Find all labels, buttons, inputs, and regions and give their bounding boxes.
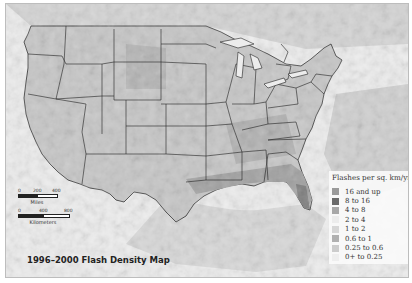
legend-item: 8 to 16 bbox=[332, 196, 409, 205]
legend-item: 0.25 to 0.6 bbox=[332, 243, 409, 252]
legend-swatch bbox=[332, 254, 339, 261]
legend-swatch bbox=[332, 188, 339, 195]
legend-swatch bbox=[332, 198, 339, 205]
legend-swatch bbox=[332, 245, 339, 252]
legend-label: 16 and up bbox=[345, 188, 381, 196]
legend-item: 0.6 to 1 bbox=[332, 234, 409, 243]
legend-label: 2 to 4 bbox=[345, 216, 365, 224]
scale-miles-bar bbox=[18, 194, 58, 198]
legend-swatch bbox=[332, 216, 339, 223]
legend-label: 0.25 to 0.6 bbox=[345, 244, 383, 252]
scale-km-bar bbox=[18, 214, 70, 218]
legend: Flashes per sq. km/yr. 16 and up 8 to 16… bbox=[329, 171, 409, 264]
scale-tick: 200 bbox=[33, 188, 42, 193]
legend-label: 0+ to 0.25 bbox=[345, 253, 382, 261]
legend-label: 0.6 to 1 bbox=[345, 235, 372, 243]
legend-label: 8 to 16 bbox=[345, 197, 370, 205]
scale-tick: 0 bbox=[18, 208, 21, 213]
legend-swatch bbox=[332, 207, 339, 214]
legend-item: 1 to 2 bbox=[332, 225, 409, 234]
legend-label: 1 to 2 bbox=[345, 225, 365, 233]
legend-swatch bbox=[332, 226, 339, 233]
scale-tick: 400 bbox=[39, 208, 48, 213]
legend-item: 16 and up bbox=[332, 187, 409, 196]
scale-tick: 800 bbox=[64, 208, 73, 213]
map-title: 1996–2000 Flash Density Map bbox=[27, 255, 170, 265]
legend-title: Flashes per sq. km/yr. bbox=[332, 173, 409, 182]
scale-km-unit: Kilometers bbox=[18, 219, 68, 225]
legend-item: 0+ to 0.25 bbox=[332, 253, 409, 262]
map-frame: 0 200 400 Miles 0 400 800 Kilometers Fla… bbox=[5, 3, 409, 278]
legend-label: 4 to 8 bbox=[345, 206, 365, 214]
scale-bar: 0 200 400 Miles 0 400 800 Kilometers bbox=[18, 188, 78, 228]
legend-item: 2 to 4 bbox=[332, 215, 409, 224]
scale-tick: 0 bbox=[18, 188, 21, 193]
legend-item: 4 to 8 bbox=[332, 206, 409, 215]
scale-tick: 400 bbox=[52, 188, 61, 193]
legend-swatch bbox=[332, 235, 339, 242]
scale-miles-unit: Miles bbox=[18, 199, 56, 205]
